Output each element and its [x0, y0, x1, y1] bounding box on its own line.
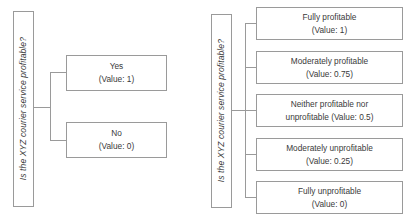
connector-branch-yes [50, 72, 67, 73]
outcome-label-fully-unprofitable: Fully unprofitable [298, 185, 361, 198]
outcome-box-moderately-profitable: Moderately profitable (Value: 0.75) [256, 51, 403, 84]
question-label-box-five-point: Is the XYZ courier service profitable? [211, 14, 232, 208]
outcome-label-yes: Yes [110, 60, 124, 73]
connector-branch-no [50, 140, 67, 141]
outcome-value-fully-profitable: (Value: 1) [312, 24, 347, 37]
outcome-value-neither: unprofitable (Value: 0.5) [286, 111, 374, 124]
outcome-label-moderately-profitable: Moderately profitable [291, 55, 368, 68]
outcome-box-moderately-unprofitable: Moderately unprofitable (Value: 0.25) [256, 138, 403, 171]
connector-spine-binary [50, 72, 51, 141]
question-text-five-point: Is the XYZ courier service profitable? [217, 39, 226, 182]
outcome-label-no: No [111, 127, 122, 140]
outcome-value-moderately-profitable: (Value: 0.75) [306, 68, 353, 81]
outcome-value-no: (Value: 0) [99, 140, 134, 153]
outcome-value-fully-unprofitable: (Value: 0) [312, 198, 347, 211]
outcome-box-yes: Yes (Value: 1) [66, 55, 167, 91]
question-text-binary: Is the XYZ courier service profitable? [19, 37, 28, 180]
outcome-label-fully-profitable: Fully profitable [303, 11, 357, 24]
outcome-value-moderately-unprofitable: (Value: 0.25) [306, 155, 353, 168]
outcome-box-no: No (Value: 0) [66, 122, 167, 158]
outcome-value-yes: (Value: 1) [99, 73, 134, 86]
two-panel-tree-diagram: Is the XYZ courier service profitable? Y… [0, 0, 412, 219]
connector-stem-binary [34, 107, 51, 108]
question-label-box-binary: Is the XYZ courier service profitable? [13, 11, 34, 207]
outcome-box-fully-profitable: Fully profitable (Value: 1) [256, 7, 403, 40]
outcome-box-fully-unprofitable: Fully unprofitable (Value: 0) [256, 181, 403, 214]
outcome-box-neither: Neither profitable nor unprofitable (Val… [256, 94, 403, 127]
connector-stem-five-point [232, 110, 246, 111]
outcome-label-moderately-unprofitable: Moderately unprofitable [286, 142, 373, 155]
outcome-label-neither: Neither profitable nor [291, 98, 368, 111]
